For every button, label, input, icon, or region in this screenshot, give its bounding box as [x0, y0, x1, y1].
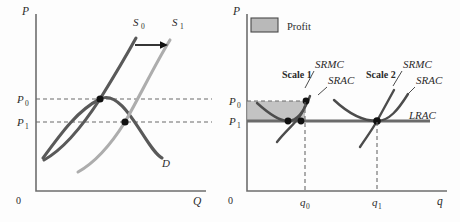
srmc-scale-2-label: SRMC: [403, 58, 432, 70]
profit-legend: Profit: [251, 18, 311, 32]
svg-text:S: S: [172, 16, 178, 28]
svg-text:P: P: [228, 115, 236, 127]
svg-text:0: 0: [306, 202, 310, 211]
svg-text:1: 1: [180, 22, 184, 31]
srac-scale-1-leader: [318, 87, 327, 95]
scale-1-label: Scale 1: [282, 69, 312, 80]
supply-curve-initial-label: S 0: [133, 16, 145, 31]
firm-price-label-p1: P 1: [228, 115, 241, 130]
firm-quantity-label-q0: q 0: [300, 196, 310, 211]
market-price-label-p1: P 1: [16, 116, 29, 131]
economics-figure: P Q 0 P 0 P 1: [0, 0, 460, 222]
equilibrium-point-initial: [96, 95, 103, 102]
market-y-axis-label: P: [21, 5, 29, 17]
firm-price-label-p0: P 0: [228, 95, 241, 110]
market-supply-demand-panel: P Q 0 P 0 P 1: [16, 5, 212, 207]
srac-scale-2-curve: [334, 94, 408, 121]
market-origin-label: 0: [16, 195, 21, 206]
svg-text:P: P: [228, 95, 236, 107]
svg-text:P: P: [16, 116, 24, 128]
market-axes: [36, 14, 206, 191]
demand-curve-label: D: [161, 157, 170, 169]
svg-text:0: 0: [141, 22, 145, 31]
srac-scale-1-label: SRAC: [328, 74, 355, 86]
market-price-label-p0: P 0: [16, 93, 29, 108]
lrac-curve-label: LRAC: [408, 109, 437, 121]
supply-shift-arrow-icon: [135, 41, 168, 49]
firm-origin-label: 0: [228, 195, 233, 206]
market-x-axis-label: Q: [193, 195, 202, 207]
firm-y-axis-label: P: [232, 5, 240, 17]
scale-1-lrac-intersection-point: [298, 118, 305, 125]
equilibrium-point-new: [121, 118, 128, 125]
firm-cost-curves-panel: P q 0 Profit P 0 P 1: [228, 5, 447, 211]
svg-text:0: 0: [237, 101, 241, 110]
firm-x-axis-label: q: [437, 195, 443, 208]
svg-text:1: 1: [378, 202, 382, 211]
svg-text:S: S: [133, 16, 139, 28]
scale-1-srac-min-point: [285, 118, 292, 125]
profit-legend-label: Profit: [287, 21, 311, 32]
svg-text:1: 1: [237, 121, 241, 130]
scale-1-output-point-p0: [303, 98, 310, 105]
supply-curve-shifted-label: S 1: [172, 16, 184, 31]
srac-scale-2-label: SRAC: [416, 74, 443, 86]
srmc-scale-1-label: SRMC: [315, 58, 344, 70]
svg-text:1: 1: [25, 122, 29, 131]
firm-quantity-label-q1: q 1: [372, 196, 382, 211]
profit-legend-swatch: [251, 18, 278, 32]
srac-scale-2-leader: [406, 87, 415, 96]
scale-2-label: Scale 2: [366, 69, 396, 80]
svg-text:0: 0: [25, 99, 29, 108]
svg-text:P: P: [16, 93, 24, 105]
